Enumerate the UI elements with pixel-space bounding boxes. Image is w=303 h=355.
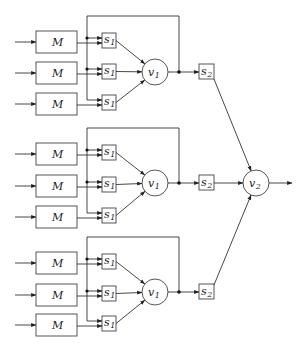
- m-label: M: [51, 148, 64, 161]
- m-label: M: [51, 98, 64, 111]
- s1-to-v1-arrow: [116, 292, 142, 293]
- junction-dot: [177, 181, 181, 185]
- group-2: Ms1Ms1Ms1v1s2: [15, 128, 243, 228]
- junction-dot: [85, 180, 88, 183]
- feedback-line: [87, 16, 179, 100]
- feedback-line: [87, 237, 179, 321]
- junction-dot: [177, 70, 181, 74]
- m-label: M: [51, 289, 64, 302]
- junction-dot: [85, 257, 88, 260]
- s2-to-v2-arrow: [214, 195, 251, 285]
- junction-dot: [85, 36, 88, 39]
- s1-to-v1-arrow: [116, 80, 145, 102]
- m-label: M: [51, 36, 64, 49]
- s1-to-v1-arrow: [116, 300, 145, 323]
- feedback-line: [87, 128, 179, 213]
- output-stage: v2: [243, 170, 292, 196]
- s1-to-v1-arrow: [116, 191, 145, 215]
- s1-to-v1-arrow: [116, 153, 145, 175]
- m-label: M: [51, 67, 64, 80]
- m-label: M: [51, 319, 64, 332]
- s1-to-v1-arrow: [116, 183, 142, 184]
- s1-to-v1-arrow: [116, 262, 145, 284]
- block-diagram: Ms1Ms1Ms1v1s2Ms1Ms1Ms1v1s2Ms1Ms1Ms1v1s2 …: [0, 0, 303, 355]
- m-label: M: [51, 211, 64, 224]
- junction-dot: [85, 67, 88, 70]
- junction-dot: [177, 290, 181, 294]
- m-label: M: [51, 180, 64, 193]
- diagram-groups: Ms1Ms1Ms1v1s2Ms1Ms1Ms1v1s2Ms1Ms1Ms1v1s2: [15, 16, 251, 336]
- s2-to-v2-arrow: [214, 79, 251, 171]
- junction-dot: [85, 148, 88, 151]
- s1-to-v1-arrow: [116, 41, 145, 64]
- m-label: M: [51, 257, 64, 270]
- junction-dot: [85, 289, 88, 292]
